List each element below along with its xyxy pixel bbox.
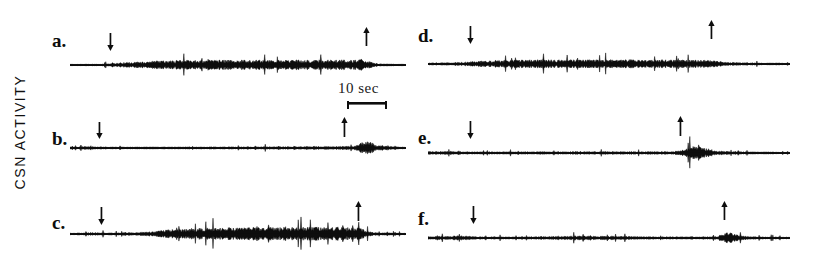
trace-baseline [428,237,790,239]
arrow-offset-d [707,20,716,39]
panel-label-f: f. [418,209,429,228]
arrow-offset-e [676,116,685,136]
panel-label-c: c. [52,213,65,232]
y-axis-label: CSN ACTIVITY [6,0,34,263]
y-axis-label-text: CSN ACTIVITY [12,74,28,189]
panel-label-d: d. [418,26,433,45]
arrow-offset-f [720,201,729,220]
panel-label-a: a. [52,31,66,50]
trace-baseline [70,147,406,149]
arrow-offset-c [354,201,363,221]
arrow-onset-d [466,26,475,44]
trace-baseline [428,63,790,65]
panel-label-b: b. [52,129,67,148]
trace-f [428,212,790,263]
scale-bar-label: 10 sec [338,80,379,97]
trace-e [428,127,790,179]
panel-e [428,127,790,179]
trace-b [70,122,406,174]
arrow-offset-a [362,27,371,46]
panel-b [70,122,406,174]
arrow-offset-b [340,117,349,137]
scale-bar: 10 sec [338,80,379,97]
trace-baseline [428,152,790,154]
arrow-onset-f [469,206,478,224]
trace-d [428,38,790,90]
arrow-onset-b [95,122,104,139]
trace-baseline [70,233,406,235]
arrow-onset-a [106,33,115,51]
figure-csn-activity: CSN ACTIVITY 10 sec a.b.c.d.e.f. [0,0,817,263]
trace-baseline [70,64,406,66]
panel-f [428,212,790,263]
scale-bar-line [345,101,389,111]
arrow-onset-e [466,121,475,139]
arrow-onset-c [97,207,106,225]
panel-label-e: e. [418,128,431,147]
panel-d [428,38,790,90]
